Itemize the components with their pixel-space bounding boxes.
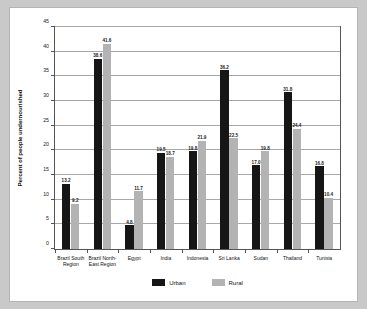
category-label: Brazil SouthRegion [54, 255, 88, 268]
plot-area: 051015202530354045 13.29.2Brazil SouthRe… [54, 26, 341, 250]
x-tick-mark [55, 249, 56, 253]
y-axis-title: Percent of people undernourished [16, 26, 28, 250]
category-label: Brazil North-East Region [85, 255, 119, 268]
bar-value-label: 21.9 [197, 135, 206, 140]
y-tick-label: 5 [46, 215, 49, 221]
legend-label: Urban [169, 280, 185, 286]
bar-urban: 16.8 [315, 166, 323, 249]
y-tick-label: 30 [43, 92, 49, 98]
bar-group: 36.222.5Sri Lanka [213, 27, 245, 249]
bar-group: 4.811.7Egypt [118, 27, 150, 249]
bar-group: 31.824.4Thailand [277, 27, 309, 249]
bar-value-label: 17.0 [252, 160, 261, 165]
x-tick-mark [118, 249, 119, 253]
bar-urban: 13.2 [62, 184, 70, 249]
bar-value-label: 11.7 [134, 186, 143, 191]
bar-rural: 19.8 [261, 151, 269, 249]
bar-urban: 31.8 [284, 92, 292, 249]
bar-value-label: 22.5 [229, 133, 238, 138]
bar-rural: 9.2 [71, 204, 79, 249]
bar-value-label: 31.8 [283, 87, 292, 92]
bar-rural: 24.4 [293, 129, 301, 249]
legend-item-urban: Urban [152, 279, 185, 286]
y-tick-label: 0 [46, 240, 49, 246]
legend-label: Rural [229, 280, 243, 286]
bar-value-label: 19.8 [261, 146, 270, 151]
bar-value-label: 41.6 [102, 38, 111, 43]
bar-rural: 22.5 [229, 138, 237, 249]
bar-urban: 19.8 [189, 151, 197, 249]
bar-group: 13.29.2Brazil SouthRegion [55, 27, 87, 249]
bar-value-label: 13.2 [62, 178, 71, 183]
bar-rural: 11.7 [134, 191, 142, 249]
y-tick-label: 10 [43, 191, 49, 197]
bar-value-label: 18.7 [166, 151, 175, 156]
y-tick-label: 25 [43, 117, 49, 123]
y-tick-label: 40 [43, 43, 49, 49]
bar-urban: 36.2 [220, 70, 228, 249]
bar-rural: 18.7 [166, 157, 174, 249]
x-tick-mark [213, 249, 214, 253]
x-tick-mark [245, 249, 246, 253]
category-label: Indonesia [180, 255, 214, 261]
bar-value-label: 16.8 [315, 161, 324, 166]
category-label: Sri Lanka [212, 255, 246, 261]
legend-item-rural: Rural [212, 279, 243, 286]
bar-rural: 21.9 [198, 141, 206, 249]
bar-value-label: 9.2 [72, 198, 78, 203]
y-tick-label: 20 [43, 141, 49, 147]
legend-swatch-urban [152, 279, 165, 286]
chart-legend: UrbanRural [54, 279, 341, 286]
bar-urban: 17.0 [252, 165, 260, 249]
bar-groups: 13.29.2Brazil SouthRegion38.641.6Brazil … [55, 27, 340, 249]
chart-figure: Percent of people undernourished 0510152… [9, 7, 358, 302]
bar-value-label: 19.5 [157, 147, 166, 152]
bar-rural: 10.4 [324, 198, 332, 249]
bar-group: 19.821.9Indonesia [182, 27, 214, 249]
category-label: Tunisia [307, 255, 341, 261]
bar-value-label: 10.4 [324, 192, 333, 197]
bar-value-label: 36.2 [220, 65, 229, 70]
y-tick-label: 45 [43, 18, 49, 24]
category-label: Egypt [117, 255, 151, 261]
x-tick-mark [182, 249, 183, 253]
bar-group: 16.810.4Tunisia [308, 27, 340, 249]
x-tick-mark [150, 249, 151, 253]
bar-urban: 19.5 [157, 153, 165, 249]
bar-urban: 4.8 [125, 225, 133, 249]
x-tick-mark [87, 249, 88, 253]
bar-group: 38.641.6Brazil North-East Region [87, 27, 119, 249]
bar-value-label: 24.4 [292, 123, 301, 128]
category-label: Sudan [244, 255, 278, 261]
bar-rural: 41.6 [103, 44, 111, 249]
bar-group: 17.019.8Sudan [245, 27, 277, 249]
x-tick-mark [308, 249, 309, 253]
y-tick-label: 15 [43, 166, 49, 172]
bar-urban: 38.6 [94, 59, 102, 249]
category-label: India [149, 255, 183, 261]
bar-value-label: 19.8 [188, 146, 197, 151]
legend-swatch-rural [212, 279, 225, 286]
bar-group: 19.518.7India [150, 27, 182, 249]
y-tick-label: 35 [43, 67, 49, 73]
bar-value-label: 38.6 [93, 53, 102, 58]
x-tick-mark [277, 249, 278, 253]
category-label: Thailand [275, 255, 309, 261]
bar-value-label: 4.8 [126, 220, 132, 225]
